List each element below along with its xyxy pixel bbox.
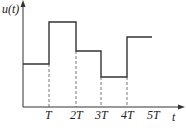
signal-waveform	[23, 22, 152, 77]
tick-label-3T: 3T	[94, 108, 109, 122]
x-axis-arrow-icon	[178, 105, 185, 110]
x-axis-label: t	[172, 110, 176, 124]
y-axis-arrow-icon	[21, 0, 26, 7]
tick-label-2T: 2T	[70, 108, 84, 122]
y-axis-label: u(t)	[2, 2, 19, 16]
tick-label-5T: 5T	[147, 108, 161, 122]
signal-diagram: u(t) t T 2T 3T 4T 5T	[0, 0, 186, 128]
tick-label-T: T	[45, 108, 53, 122]
y-axis	[21, 0, 26, 107]
dashed-guides	[49, 51, 127, 107]
tick-label-4T: 4T	[121, 108, 135, 122]
